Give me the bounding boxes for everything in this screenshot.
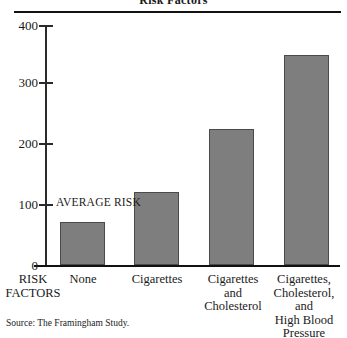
- x-label-cigarettes-cholesterol-blood-pressure: Cigarettes,Cholesterol,andHigh BloodPres…: [262, 273, 346, 338]
- x-label-line: and: [262, 300, 346, 314]
- y-tick-label-100: 100: [2, 198, 38, 211]
- x-label-line: High Blood: [262, 314, 346, 328]
- x-label-line: Cigarettes: [118, 273, 196, 287]
- x-axis-caption: RISK FACTORS: [2, 273, 64, 300]
- y-tick-label-200-wrap: 200: [0, 137, 38, 150]
- y-tick-label-300-wrap: 300: [0, 76, 38, 89]
- average-risk-annotation: AVERAGE RISK: [56, 196, 141, 209]
- x-axis-caption-line2: FACTORS: [2, 287, 64, 301]
- plot-area: 400 300 200 100 0 AVERAGE RISK None Ciga…: [0, 0, 347, 338]
- y-tick-label-0: 0: [2, 259, 38, 272]
- chart-figure: Risk Factors 400 300 200 100 0 AVER: [0, 0, 347, 338]
- x-label-line: Pressure: [262, 327, 346, 338]
- y-tick-label-300: 300: [2, 76, 38, 89]
- y-tick-label-400: 400: [2, 19, 38, 32]
- y-axis-line: [45, 25, 47, 266]
- x-axis-line: [34, 265, 340, 267]
- y-tick-200: [39, 143, 53, 145]
- y-tick-label-0-wrap: 0: [0, 259, 38, 272]
- x-label-cigarettes: Cigarettes: [118, 273, 196, 287]
- x-axis-caption-line1: RISK: [2, 273, 64, 287]
- y-tick-100: [39, 204, 53, 206]
- source-note: Source: The Framingham Study.: [6, 318, 129, 329]
- y-tick-label-400-wrap: 400: [0, 19, 38, 32]
- bar-cigarettes-cholesterol: [209, 129, 254, 265]
- y-tick-300: [39, 82, 53, 84]
- y-tick-label-200: 200: [2, 137, 38, 150]
- bar-none: [60, 222, 105, 265]
- y-tick-label-100-wrap: 100: [0, 198, 38, 211]
- y-tick-400: [39, 25, 53, 27]
- x-label-line: Cholesterol,: [262, 287, 346, 301]
- bar-cigarettes-cholesterol-blood-pressure: [284, 55, 329, 265]
- x-label-line: Cigarettes,: [262, 273, 346, 287]
